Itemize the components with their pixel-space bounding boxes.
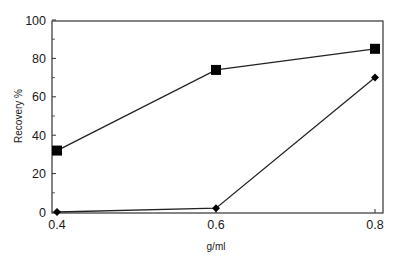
- x-tick-label: 0.8: [366, 218, 383, 232]
- line-chart: 020406080100 0.40.60.8 Recovery % g/ml: [0, 0, 397, 270]
- plot-border: [52, 21, 383, 213]
- square-marker: [211, 65, 221, 75]
- square-marker: [370, 44, 380, 54]
- y-tick-label: 80: [32, 52, 46, 66]
- y-tick-label: 20: [32, 167, 46, 181]
- diamond-series-line: [57, 78, 375, 212]
- y-tick-label: 100: [25, 14, 46, 28]
- x-tick-label: 0.4: [48, 218, 65, 232]
- y-tick-label: 40: [32, 129, 46, 143]
- x-tick-label: 0.6: [207, 218, 224, 232]
- square-marker: [52, 146, 62, 156]
- y-tick-label: 60: [32, 90, 46, 104]
- x-axis-label: g/ml: [207, 241, 226, 252]
- y-axis-label: Recovery %: [13, 89, 24, 143]
- y-axis: 020406080100: [25, 14, 56, 220]
- data-series: [52, 44, 380, 216]
- y-tick-label: 0: [39, 206, 46, 220]
- square-series-line: [57, 49, 375, 151]
- plot-frame: [52, 21, 383, 213]
- diamond-marker: [53, 208, 61, 216]
